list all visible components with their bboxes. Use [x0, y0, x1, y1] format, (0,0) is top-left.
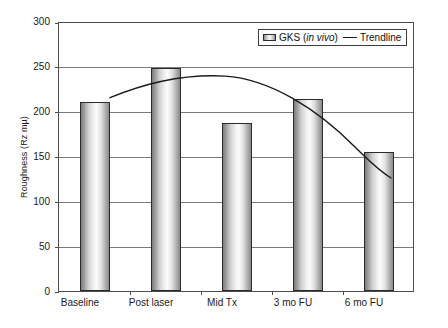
y-tick-label-300: 300: [16, 17, 50, 27]
bar-chart: Roughness (Rz mµ) 300 250 200 150 100 50…: [0, 0, 448, 328]
plot-area: [58, 22, 414, 292]
y-tickmark-200: [55, 112, 59, 113]
bar-mid-tx: [222, 123, 252, 291]
y-tick-label-0: 0: [16, 287, 50, 297]
legend-entry-gks: GKS (in vivo): [263, 32, 338, 43]
bar-swatch-icon: [263, 34, 276, 41]
bar-3-mo-fu: [293, 99, 323, 291]
y-tickmark-150: [55, 157, 59, 158]
bar-6-mo-fu: [364, 152, 394, 291]
x-tick-label-mid-tx: Mid Tx: [186, 297, 258, 308]
gridline-200: [59, 112, 413, 113]
y-tick-label-150: 150: [16, 152, 50, 162]
bar-baseline: [80, 102, 110, 291]
line-swatch-icon: [343, 37, 357, 38]
y-tickmark-50: [55, 247, 59, 248]
y-tickmark-100: [55, 202, 59, 203]
x-tick-label-3-mo-fu: 3 mo FU: [257, 297, 329, 308]
legend-label-gks-suffix: ): [335, 32, 338, 43]
y-tickmark-300: [55, 23, 59, 24]
x-tickmark-4: [343, 291, 344, 295]
y-tickmark-0: [55, 292, 59, 293]
legend-label-trendline: Trendline: [360, 32, 401, 43]
x-tick-label-post-laser: Post laser: [115, 297, 187, 308]
legend-label-gks: GKS (in vivo): [279, 32, 338, 43]
gridline-250: [59, 67, 413, 68]
bar-post-laser: [151, 68, 181, 291]
legend-label-gks-prefix: GKS (: [279, 32, 306, 43]
x-tickmark-3: [272, 291, 273, 295]
y-tick-label-200: 200: [16, 107, 50, 117]
y-tick-label-250: 250: [16, 62, 50, 72]
x-tickmark-1: [130, 291, 131, 295]
y-tickmark-250: [55, 67, 59, 68]
y-tick-label-50: 50: [16, 242, 50, 252]
x-tickmark-2: [201, 291, 202, 295]
x-tick-label-6-mo-fu: 6 mo FU: [328, 297, 400, 308]
legend-entry-trendline: Trendline: [343, 32, 401, 43]
chart-legend: GKS (in vivo) Trendline: [258, 29, 407, 46]
legend-label-gks-italic: in vivo: [306, 32, 334, 43]
y-tick-label-100: 100: [16, 197, 50, 207]
x-tick-label-baseline: Baseline: [44, 297, 116, 308]
